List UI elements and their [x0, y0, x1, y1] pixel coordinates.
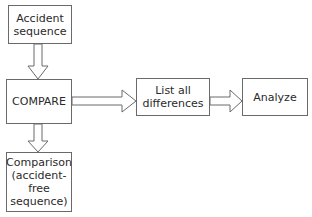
node-accident-sequence: Accident sequence	[8, 5, 72, 44]
node-label-line: List all	[143, 84, 204, 97]
node-label-line: (accident-	[6, 169, 72, 182]
node-label-line: COMPARE	[12, 95, 66, 108]
arrow-accident-to-compare	[28, 44, 48, 79]
node-label-line: Analyze	[253, 91, 296, 104]
node-label-line: sequence)	[6, 195, 72, 208]
node-list-all-differences: List all differences	[136, 78, 210, 116]
node-compare: COMPARE	[6, 79, 72, 124]
node-label-line: sequence	[13, 25, 66, 38]
node-comparison-accident-free-sequence: Comparison (accident- free sequence)	[6, 152, 72, 212]
node-label-line: Accident	[13, 12, 66, 25]
node-label-line: free	[6, 182, 72, 195]
arrow-compare-to-differences	[72, 90, 136, 112]
node-label-line: differences	[143, 97, 204, 110]
node-label-line: Comparison	[6, 156, 72, 169]
node-analyze: Analyze	[242, 78, 308, 116]
arrow-differences-to-analyze	[210, 90, 242, 112]
arrow-compare-to-comparison	[28, 124, 48, 152]
